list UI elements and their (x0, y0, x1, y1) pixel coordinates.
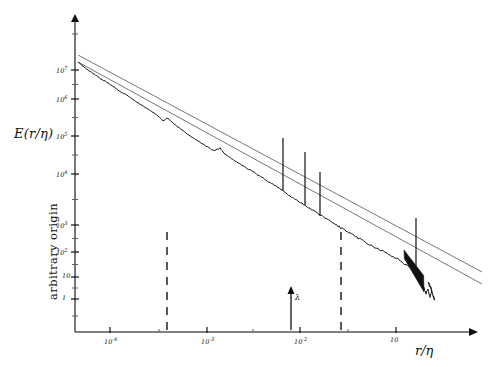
x-axis-arrowhead (469, 328, 478, 336)
dissipation-blob (404, 250, 424, 292)
y-axis-label: E(r/η) (14, 126, 53, 141)
x-tick-label: 10 (390, 336, 398, 344)
x-tick-label: 10-3 (201, 336, 214, 346)
y-tick-label: 106 (56, 94, 67, 104)
y-tick-label: 102 (56, 247, 67, 257)
plot-svg (0, 0, 492, 367)
figure-canvas: E(r/η) arbitrary origin r/η λ 1071061051… (0, 0, 492, 367)
y-tick-label: 1 (62, 294, 66, 302)
x-tick-label: 10-2 (294, 336, 307, 346)
x-axis-label: r/η (415, 343, 433, 358)
reference-line (78, 62, 482, 284)
y-tick-label: 103 (56, 220, 67, 230)
lambda-arrowhead (288, 286, 295, 294)
spectrum-trace (78, 62, 435, 300)
y-tick-label: 107 (56, 65, 67, 75)
y-tick-label: 104 (56, 169, 67, 179)
reference-line (78, 55, 482, 272)
y-axis-arrowhead (71, 14, 79, 22)
y-tick-label: 10 (62, 272, 70, 280)
y-tick-label: 105 (56, 131, 67, 141)
lambda-marker-label: λ (295, 293, 300, 302)
x-tick-label: 10-4 (104, 336, 117, 346)
